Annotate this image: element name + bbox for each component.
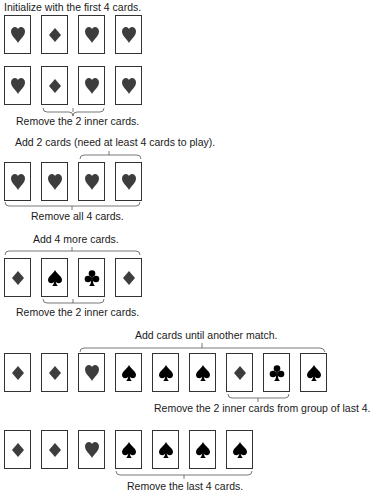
- card-heart: [115, 66, 142, 105]
- heart-icon: [10, 173, 26, 191]
- spade-icon: [232, 441, 248, 459]
- step-3-caption: Add 2 cards (need at least 4 cards to pl…: [15, 136, 215, 148]
- card-heart: [78, 162, 105, 201]
- step-5-caption: Add cards until another match.: [135, 329, 277, 341]
- step-2-caption: Remove the 2 inner cards.: [16, 115, 139, 127]
- spade-icon: [121, 441, 137, 459]
- card-spade: [189, 430, 216, 469]
- heart-icon: [121, 173, 137, 191]
- spade-icon: [195, 364, 211, 382]
- club-icon: [84, 269, 100, 287]
- card-club: [78, 258, 105, 297]
- card-diamond: [226, 353, 253, 392]
- card-spade: [115, 353, 142, 392]
- card-diamond: [115, 258, 142, 297]
- heart-icon: [47, 173, 63, 191]
- club-icon: [269, 364, 285, 382]
- step-6-caption: Remove the last 4 cards.: [127, 480, 243, 492]
- spade-icon: [306, 364, 322, 382]
- diamond-icon: [10, 441, 26, 459]
- card-heart: [4, 162, 31, 201]
- diamond-icon: [47, 26, 63, 44]
- card-diamond: [41, 430, 68, 469]
- card-spade: [152, 430, 179, 469]
- step-3b-caption: Remove all 4 cards.: [31, 210, 124, 222]
- card-spade: [115, 430, 142, 469]
- heart-icon: [84, 26, 100, 44]
- step-1-caption: Initialize with the first 4 cards.: [4, 1, 141, 13]
- diamond-icon: [47, 77, 63, 95]
- card-spade: [152, 353, 179, 392]
- card-spade: [300, 353, 327, 392]
- spade-icon: [158, 441, 174, 459]
- card-heart: [78, 430, 105, 469]
- card-heart: [78, 353, 105, 392]
- heart-icon: [84, 364, 100, 382]
- step-4-caption: Add 4 more cards.: [33, 233, 119, 245]
- card-heart: [4, 66, 31, 105]
- card-diamond: [4, 430, 31, 469]
- card-heart: [78, 66, 105, 105]
- card-spade: [226, 430, 253, 469]
- diamond-icon: [47, 441, 63, 459]
- spade-icon: [47, 269, 63, 287]
- heart-icon: [121, 77, 137, 95]
- heart-icon: [84, 77, 100, 95]
- heart-icon: [84, 173, 100, 191]
- card-diamond: [41, 15, 68, 54]
- diamond-icon: [10, 364, 26, 382]
- diamond-icon: [121, 269, 137, 287]
- heart-icon: [84, 441, 100, 459]
- card-heart: [41, 162, 68, 201]
- card-spade: [189, 353, 216, 392]
- spade-icon: [195, 441, 211, 459]
- card-heart: [115, 15, 142, 54]
- card-spade: [41, 258, 68, 297]
- diamond-icon: [47, 364, 63, 382]
- spade-icon: [121, 364, 137, 382]
- card-diamond: [41, 66, 68, 105]
- card-heart: [115, 162, 142, 201]
- heart-icon: [10, 26, 26, 44]
- card-diamond: [41, 353, 68, 392]
- card-diamond: [4, 353, 31, 392]
- diamond-icon: [10, 269, 26, 287]
- card-heart: [4, 15, 31, 54]
- step-5b-caption: Remove the 2 inner cards from group of l…: [154, 402, 371, 414]
- heart-icon: [10, 77, 26, 95]
- step-4b-caption: Remove the 2 inner cards.: [16, 306, 139, 318]
- spade-icon: [158, 364, 174, 382]
- heart-icon: [121, 26, 137, 44]
- diamond-icon: [232, 364, 248, 382]
- card-heart: [78, 15, 105, 54]
- card-club: [263, 353, 290, 392]
- card-diamond: [4, 258, 31, 297]
